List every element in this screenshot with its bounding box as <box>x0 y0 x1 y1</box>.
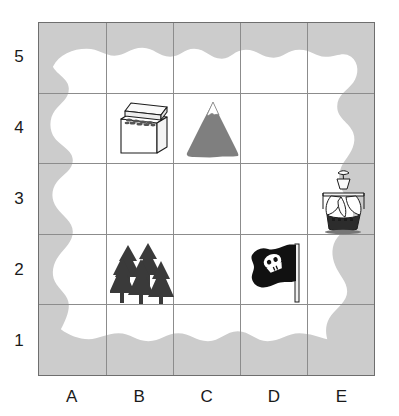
cell-c4[interactable] <box>174 94 241 165</box>
column-axis-labels: A B C D E <box>38 378 375 416</box>
cell-d2[interactable] <box>241 235 308 306</box>
cell-e2[interactable] <box>309 235 375 306</box>
cell-a3[interactable] <box>39 165 106 236</box>
map-board <box>38 22 375 376</box>
column-label-d: D <box>240 378 307 416</box>
cell-c2[interactable] <box>174 235 241 306</box>
treasure-map-figure: 5 4 3 2 1 A B C D E <box>0 0 399 416</box>
cell-c1[interactable] <box>174 306 241 376</box>
row-label-4: 4 <box>0 93 38 164</box>
cell-a4[interactable] <box>39 94 106 165</box>
cell-d1[interactable] <box>241 306 308 376</box>
cell-d4[interactable] <box>241 94 308 165</box>
cell-b5[interactable] <box>106 23 173 94</box>
cell-d3[interactable] <box>241 165 308 236</box>
cell-b1[interactable] <box>106 306 173 376</box>
cell-a5[interactable] <box>39 23 106 94</box>
row-label-2: 2 <box>0 234 38 305</box>
row-label-3: 3 <box>0 164 38 235</box>
cell-e5[interactable] <box>309 23 375 94</box>
row-axis-labels: 5 4 3 2 1 <box>0 22 38 376</box>
cell-c5[interactable] <box>174 23 241 94</box>
cell-e1[interactable] <box>309 306 375 376</box>
column-label-e: E <box>308 378 375 416</box>
cell-b2[interactable] <box>106 235 173 306</box>
cell-d5[interactable] <box>241 23 308 94</box>
column-label-b: B <box>105 378 172 416</box>
column-label-a: A <box>38 378 105 416</box>
cell-e4[interactable] <box>309 94 375 165</box>
cell-e3[interactable] <box>309 165 375 236</box>
column-label-c: C <box>173 378 240 416</box>
cell-a2[interactable] <box>39 235 106 306</box>
cell-b4[interactable] <box>106 94 173 165</box>
cell-c3[interactable] <box>174 165 241 236</box>
row-label-1: 1 <box>0 305 38 376</box>
cell-a1[interactable] <box>39 306 106 376</box>
cell-b3[interactable] <box>106 165 173 236</box>
row-label-5: 5 <box>0 22 38 93</box>
